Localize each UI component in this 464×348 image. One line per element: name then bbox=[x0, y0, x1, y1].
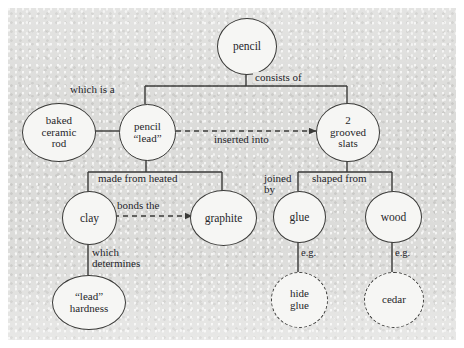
node-graphite[interactable]: graphite bbox=[190, 190, 257, 246]
edge-label-joined-by: joined by bbox=[264, 173, 292, 196]
edge-label-inserted-into: inserted into bbox=[214, 134, 269, 145]
node-cedar-label: cedar bbox=[382, 294, 406, 306]
edge-label-which-determines: which determines bbox=[92, 247, 140, 270]
edge-label-bonds-the: bonds the bbox=[117, 200, 159, 211]
edge-label-consists-of: consists of bbox=[253, 72, 304, 83]
node-lead-hardness[interactable]: “lead” hardness bbox=[52, 275, 126, 330]
node-wood[interactable]: wood bbox=[365, 191, 422, 243]
node-pencil-lead-label: pencil “lead” bbox=[133, 121, 161, 144]
node-graphite-label: graphite bbox=[205, 212, 243, 224]
node-hide-glue-label: hide glue bbox=[290, 288, 309, 311]
node-baked-ceramic-rod-label: baked ceramic rod bbox=[42, 115, 77, 150]
node-wood-label: wood bbox=[381, 211, 407, 223]
edge-label-which-is-a: which is a bbox=[70, 84, 115, 95]
diagram-canvas: pencil baked ceramic rod pencil “lead” 2… bbox=[0, 0, 464, 348]
node-lead-hardness-label: “lead” hardness bbox=[70, 291, 109, 314]
node-cedar[interactable]: cedar bbox=[364, 272, 424, 328]
node-pencil-lead[interactable]: pencil “lead” bbox=[119, 104, 176, 161]
edge-label-eg-glue: e.g. bbox=[301, 248, 316, 259]
edge-label-made-from-heated: made from heated bbox=[96, 173, 179, 184]
node-grooved-slats-label: 2 grooved slats bbox=[330, 115, 366, 150]
node-pencil-label: pencil bbox=[233, 40, 261, 52]
edge-label-eg-wood: e.g. bbox=[395, 248, 410, 259]
node-grooved-slats[interactable]: 2 grooved slats bbox=[316, 103, 380, 162]
node-pencil[interactable]: pencil bbox=[217, 18, 277, 75]
node-hide-glue[interactable]: hide glue bbox=[271, 272, 328, 328]
node-baked-ceramic-rod[interactable]: baked ceramic rod bbox=[22, 103, 96, 162]
node-glue[interactable]: glue bbox=[273, 191, 326, 243]
node-clay[interactable]: clay bbox=[62, 191, 117, 245]
node-clay-label: clay bbox=[80, 212, 99, 224]
node-glue-label: glue bbox=[290, 211, 310, 223]
edge-label-shaped-from: shaped from bbox=[310, 173, 369, 184]
